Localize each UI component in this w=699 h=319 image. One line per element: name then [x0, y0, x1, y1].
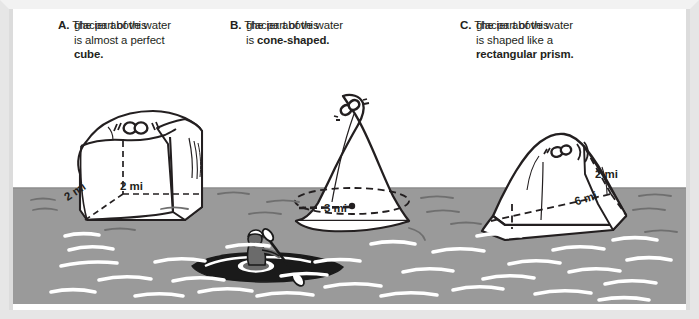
cube-width-label: 2 mi: [120, 180, 143, 192]
caption-a: A. The part of this glacier above water …: [58, 18, 228, 62]
prism-width-label: 2 mi: [595, 168, 618, 180]
caption-c-line-2: glacier above water: [476, 19, 573, 31]
caption-b-line-2: glacier above water: [246, 19, 343, 31]
caption-b-letter: B.: [230, 18, 241, 31]
caption-c-line-3: is shaped like a: [476, 34, 553, 46]
caption-c: C. The part of this glacier above water …: [460, 18, 640, 62]
caption-a-line-3: is almost a perfect: [74, 34, 165, 46]
caption-c-letter: C.: [460, 18, 471, 31]
caption-c-bold: rectangular prism.: [476, 48, 574, 60]
cone-radius-label: 3 mi: [324, 202, 347, 214]
caption-b-lead: is: [246, 34, 257, 46]
cone-center-dot: [349, 203, 355, 209]
caption-a-letter: A.: [58, 18, 69, 31]
caption-a-bold: cube.: [74, 48, 103, 60]
caption-b: B. The part of this glacier above water …: [230, 18, 405, 47]
figure-illustration: 2 mi 2 mi 3 mi 2 mi 6 mi A. The part of …: [0, 0, 699, 319]
caption-a-line-2: glacier above water: [74, 19, 171, 31]
caption-b-bold: cone-shaped.: [257, 34, 329, 46]
